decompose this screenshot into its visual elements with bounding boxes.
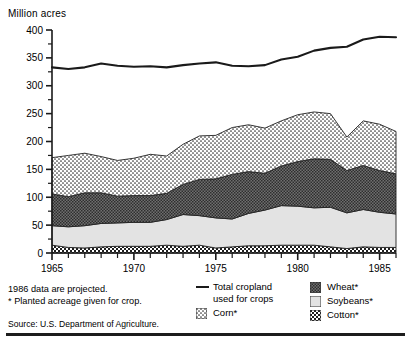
legend-item-corn: Corn*: [196, 307, 273, 319]
total-cropland-line: [52, 37, 396, 69]
corn-swatch-icon: [196, 308, 207, 319]
svg-text:150: 150: [26, 164, 43, 175]
legend-label-corn: Corn*: [213, 307, 237, 319]
svg-text:1985: 1985: [368, 263, 391, 274]
legend-right: Wheat* Soybeans* Cotton*: [310, 281, 373, 323]
legend-left: Total cropland used for crops Corn*: [196, 281, 273, 321]
svg-text:350: 350: [26, 52, 43, 63]
svg-text:250: 250: [26, 108, 43, 119]
svg-text:1970: 1970: [123, 263, 146, 274]
svg-text:0: 0: [37, 248, 43, 259]
line-swatch-icon: [196, 281, 209, 292]
legend-item-total: Total cropland used for crops: [196, 281, 273, 305]
note-planted: * Planted acreage given for crop.: [8, 295, 142, 307]
note-source: Source: U.S. Department of Agriculture.: [8, 318, 159, 330]
stacked-areas: [52, 112, 396, 253]
legend-item-soybeans: Soybeans*: [310, 295, 373, 307]
svg-text:1975: 1975: [205, 263, 228, 274]
svg-text:200: 200: [26, 136, 43, 147]
legend-label-wheat: Wheat*: [327, 281, 358, 293]
svg-text:1980: 1980: [287, 263, 310, 274]
legend-label-soybeans: Soybeans*: [327, 295, 373, 307]
legend-label-total: Total cropland used for crops: [213, 281, 273, 305]
chart-plot: 0501001502002503003504001965197019751980…: [0, 0, 411, 280]
legend-item-wheat: Wheat*: [310, 281, 373, 293]
chart-container: Million acres 050100150200: [0, 0, 411, 341]
svg-text:1965: 1965: [41, 263, 64, 274]
legend-label-cotton: Cotton*: [327, 309, 359, 321]
soybeans-swatch-icon: [310, 296, 321, 307]
svg-text:100: 100: [26, 192, 43, 203]
svg-text:50: 50: [32, 220, 44, 231]
svg-text:300: 300: [26, 80, 43, 91]
svg-text:400: 400: [26, 25, 43, 36]
wheat-swatch-icon: [310, 282, 321, 293]
cotton-swatch-icon: [310, 310, 321, 321]
legend-item-cotton: Cotton*: [310, 309, 373, 321]
bottom-rule: [6, 333, 405, 336]
note-projected: 1986 data are projected.: [8, 283, 108, 295]
